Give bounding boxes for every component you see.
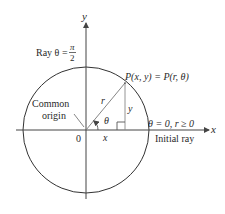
- right-angle-marker: [117, 122, 125, 130]
- theta-label: θ: [104, 115, 109, 126]
- common-origin-label-line1: Common: [32, 98, 69, 109]
- two-denominator: 2: [70, 53, 75, 63]
- initial-condition-label: θ = 0, r ≥ 0: [148, 118, 194, 129]
- common-origin-pointer: [74, 114, 84, 127]
- y-axis-label: y: [81, 10, 87, 22]
- ray-top-label: Ray θ =: [36, 47, 68, 58]
- x-segment-label: x: [102, 132, 108, 143]
- point-p: [124, 82, 126, 84]
- polar-coordinates-diagram: y x 0 Ray θ = π 2 P(x, y) = P(r, θ) r y …: [0, 0, 225, 214]
- initial-ray-label: Initial ray: [155, 133, 194, 144]
- common-origin-label-line2: origin: [42, 110, 66, 121]
- y-segment-label: y: [127, 103, 133, 114]
- pi-numerator: π: [70, 42, 75, 52]
- point-p-label: P(x, y) = P(r, θ): [124, 71, 190, 83]
- diagram-canvas: y x 0 Ray θ = π 2 P(x, y) = P(r, θ) r y …: [0, 0, 225, 214]
- r-label: r: [101, 95, 105, 106]
- x-axis-label: x: [210, 123, 216, 135]
- origin-label: 0: [76, 133, 81, 144]
- theta-arc: [94, 121, 98, 130]
